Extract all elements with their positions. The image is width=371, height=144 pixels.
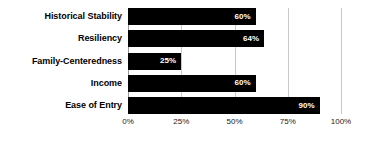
x-tick-label: 50%	[226, 118, 242, 126]
bar-value-label: 60%	[234, 13, 255, 21]
bar: 64%	[128, 30, 264, 47]
bar-value-label: 64%	[243, 35, 264, 43]
x-axis-tick-labels: 0%25%50%75%100%	[128, 118, 341, 132]
x-tick-label: 0%	[122, 118, 134, 126]
bar-row: 90%	[128, 97, 341, 114]
x-tick-label: 100%	[331, 118, 351, 126]
category-label: Family-Centeredness	[0, 53, 122, 70]
bar: 60%	[128, 75, 256, 92]
x-tick-label: 25%	[173, 118, 189, 126]
category-label: Historical Stability	[0, 8, 122, 25]
bar-row: 64%	[128, 30, 341, 47]
gridline-100pct	[341, 8, 342, 114]
bar-value-label: 60%	[234, 79, 255, 87]
x-tick-label: 75%	[280, 118, 296, 126]
bar-value-label: 25%	[160, 57, 181, 65]
bar-row: 60%	[128, 8, 341, 25]
category-axis-labels: Historical StabilityResiliencyFamily-Cen…	[0, 8, 122, 114]
bar: 60%	[128, 8, 256, 25]
bar-value-label: 90%	[298, 102, 319, 110]
category-label: Ease of Entry	[0, 97, 122, 114]
category-label: Income	[0, 75, 122, 92]
bar: 25%	[128, 53, 181, 70]
category-label: Resiliency	[0, 30, 122, 47]
bar-row: 25%	[128, 53, 341, 70]
bar-chart: Historical StabilityResiliencyFamily-Cen…	[0, 0, 371, 144]
bar-row: 60%	[128, 75, 341, 92]
bars-container: 60%64%25%60%90%	[128, 8, 341, 114]
bar: 90%	[128, 97, 320, 114]
plot-area: 60%64%25%60%90%	[128, 8, 341, 114]
